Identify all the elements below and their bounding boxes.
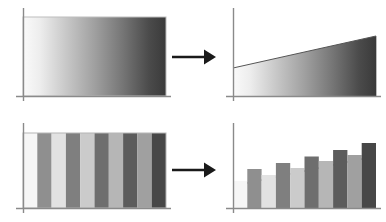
stripe-band xyxy=(52,133,66,208)
panel-continuous-ramp-rectangle xyxy=(0,0,180,111)
bar-group xyxy=(233,143,376,209)
bar xyxy=(333,150,347,209)
stripe-band xyxy=(80,133,94,208)
stripe-band xyxy=(95,133,109,208)
figure-root: Continuous and banded intensity ramps tr… xyxy=(0,0,386,222)
bar xyxy=(362,143,376,209)
bar xyxy=(290,168,304,209)
stripe-band xyxy=(123,133,137,208)
bar xyxy=(233,181,247,209)
stripe-band xyxy=(37,133,51,208)
bar xyxy=(276,163,290,209)
bar xyxy=(305,157,319,209)
stripe-band xyxy=(23,133,37,208)
bar xyxy=(262,175,276,209)
stripe-group xyxy=(23,133,166,208)
panel-continuous-ramp-wedge xyxy=(210,0,386,111)
bar xyxy=(319,161,333,209)
continuous-ramp-fill xyxy=(23,17,166,96)
bar xyxy=(347,155,361,209)
panel-banded-ramp-bars xyxy=(210,111,386,222)
wedge-ramp-fill xyxy=(233,36,376,96)
stripe-band xyxy=(152,133,166,208)
stripe-band xyxy=(66,133,80,208)
stripe-band xyxy=(137,133,151,208)
stripe-band xyxy=(109,133,123,208)
panel-banded-ramp-stripes xyxy=(0,111,180,222)
bar xyxy=(247,169,261,209)
